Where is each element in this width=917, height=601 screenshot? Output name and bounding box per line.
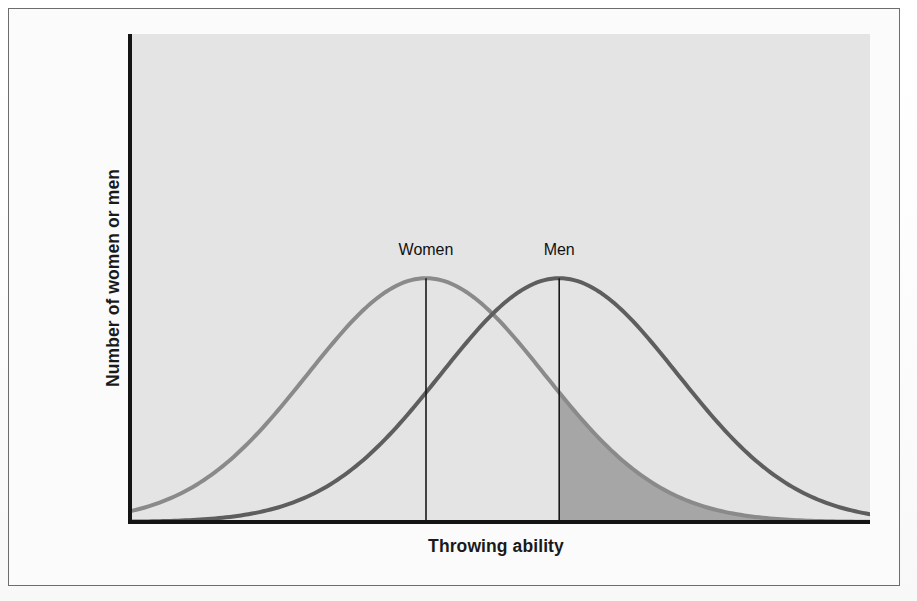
curve-women [130, 278, 870, 522]
curve-men [130, 278, 870, 521]
axis-lines-group [128, 34, 870, 522]
figure-frame: Women Men Number of women or men Throwin… [8, 8, 900, 586]
x-axis-label: Throwing ability [122, 536, 870, 557]
figure-page: Women Men Number of women or men Throwin… [0, 0, 917, 601]
distribution-chart [122, 34, 870, 524]
curve-label-men: Men [499, 241, 619, 259]
chart-area: Women Men [122, 34, 870, 522]
y-axis-label: Number of women or men [99, 34, 127, 522]
curve-label-women: Women [366, 241, 486, 259]
curves-group [130, 278, 870, 522]
